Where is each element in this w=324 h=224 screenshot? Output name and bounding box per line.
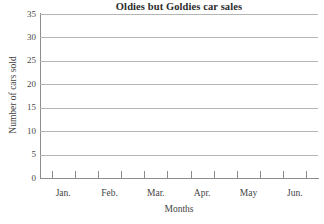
y-axis-tick-label: 30 (2, 33, 36, 42)
gridline (40, 108, 318, 109)
chart-figure: Oldies but Goldies car sales Number of c… (0, 0, 324, 224)
x-axis-tick (98, 171, 99, 178)
x-axis-tick-label: Jun. (272, 188, 318, 199)
gridline (40, 37, 318, 38)
x-axis-tick-label: Jan. (40, 188, 86, 199)
x-axis-title: Months (40, 204, 318, 215)
x-axis-tick (75, 171, 76, 178)
x-axis-tick-label: Feb. (87, 188, 133, 199)
x-axis-tick (237, 171, 238, 178)
gridline (40, 84, 318, 85)
x-axis-tick (52, 171, 53, 178)
gridline (40, 61, 318, 62)
x-axis-tick (167, 171, 168, 178)
y-axis-tick-label: 10 (2, 127, 36, 136)
y-axis-tick-label: 5 (2, 150, 36, 159)
x-axis-tick-label: Apr. (179, 188, 225, 199)
x-axis-tick (191, 171, 192, 178)
y-axis-tick-label: 20 (2, 80, 36, 89)
plot-area (40, 14, 318, 178)
gridline (40, 14, 318, 15)
x-axis-tick-label: May (226, 188, 272, 199)
x-axis-tick (306, 171, 307, 178)
y-axis-tick-label: 15 (2, 103, 36, 112)
y-axis-tick-label: 25 (2, 56, 36, 65)
y-axis-tick-labels: 05101520253035 (0, 0, 36, 224)
gridline (40, 155, 318, 156)
x-axis-tick (144, 171, 145, 178)
gridline (40, 131, 318, 132)
x-axis-tick-label: Mar. (133, 188, 179, 199)
y-axis-tick-label: 0 (2, 174, 36, 183)
x-axis-tick (260, 171, 261, 178)
y-axis-tick-label: 35 (2, 10, 36, 19)
x-axis-tick (121, 171, 122, 178)
x-axis-tick (283, 171, 284, 178)
chart-title: Oldies but Goldies car sales (40, 1, 318, 12)
x-axis-tick (214, 171, 215, 178)
x-axis-line (40, 178, 319, 179)
